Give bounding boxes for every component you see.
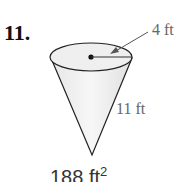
problem-number: 11. xyxy=(4,20,30,46)
slant-height-label: 11 ft xyxy=(116,100,145,118)
answer-label: 188 ft2 xyxy=(50,164,107,182)
arrow-line xyxy=(114,32,148,52)
answer-exponent: 2 xyxy=(100,164,107,179)
radius-label: 4 ft xyxy=(152,21,174,39)
answer-value: 188 ft xyxy=(50,166,100,182)
